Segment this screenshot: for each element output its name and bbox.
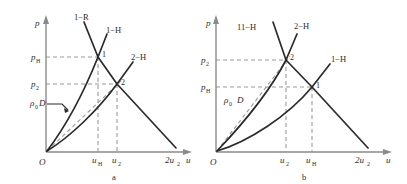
- two-panel-pressure-velocity-diagram: p u O 1−R 1−H 2−H ρ 0 D: [0, 0, 407, 184]
- panel-a-xtick-uH: u H: [92, 155, 103, 167]
- panel-a-xtick-2u2-text: 2u: [165, 155, 175, 165]
- panel-a-label-rho-sub: 0: [35, 104, 38, 110]
- panel-b-label-1H: 1−H: [331, 54, 346, 64]
- panel-a-origin-label: O: [39, 157, 46, 167]
- panel-a-ytick-p2-sub: 2: [36, 85, 39, 91]
- panel-a-xtick-2u2-sub: 2: [177, 161, 180, 167]
- panel-b-label-rho-sub: 0: [229, 101, 232, 107]
- panel-a-label-2H: 2−H: [131, 52, 146, 62]
- panel-b-label-rho0-D: ρ 0 D: [223, 95, 244, 107]
- panel-b-xtick-uH-sub: H: [312, 161, 317, 167]
- panel-a-ytick-pH: p H: [30, 52, 41, 64]
- figure-container: p u O 1−R 1−H 2−H ρ 0 D: [0, 0, 407, 184]
- panel-b-xtick-2u2-sub: 2: [367, 161, 370, 167]
- panel-b-ytick-p2-sub: 2: [206, 61, 209, 67]
- panel-b-ytick-pH: p H: [200, 82, 211, 94]
- panel-a-y-axis-label: p: [34, 18, 40, 28]
- panel-b-xtick-2u2-text: 2u: [355, 155, 365, 165]
- panel-b-xtick-u2-sub: 2: [286, 161, 289, 167]
- panel-a-xtick-u2-sub: 2: [118, 161, 121, 167]
- panel-a-ytick-p2: p 2: [30, 79, 39, 91]
- panel-a-point-1-label: 1: [102, 50, 106, 59]
- panel-a-label-D: D: [38, 98, 46, 108]
- panel-a-label-1R: 1−R: [74, 12, 89, 22]
- panel-b-point-1-label: 1: [316, 81, 320, 90]
- panel-b-ytick-pH-sub: H: [206, 88, 211, 94]
- panel-b-xtick-uH-text: u: [306, 155, 311, 165]
- panel-a-xtick-u2: u 2: [112, 155, 121, 167]
- panel-a-rho0-d-chord: [47, 80, 122, 151]
- panel-b-x-axis: [216, 149, 392, 155]
- panel-a-ytick-pH-sub: H: [36, 58, 41, 64]
- panel-b-y-axis-label: p: [205, 18, 211, 28]
- panel-b-label-2H: 2−H: [294, 21, 309, 31]
- panel-b-caption: b: [302, 172, 306, 182]
- panel-a-label-rho0-D: ρ 0 D: [29, 98, 69, 113]
- panel-a-xtick-uH-sub: H: [98, 161, 103, 167]
- panel-b: p u O 11−H 2−H 1−H ρ 0 D 2: [200, 15, 392, 182]
- panel-b-xtick-u2-text: u: [280, 155, 285, 165]
- panel-b-ytick-p2: p 2: [200, 55, 209, 67]
- panel-b-y-axis: [213, 15, 219, 152]
- panel-a-xtick-2u2: 2u 2: [165, 155, 180, 167]
- panel-b-point-2-label: 2: [290, 53, 294, 62]
- panel-b-origin-label: O: [210, 157, 217, 167]
- panel-b-xtick-uH: u H: [306, 155, 317, 167]
- panel-b-curve-11-H: [273, 22, 368, 148]
- panel-b-label-11H: 11−H: [237, 22, 256, 32]
- panel-a-xtick-uH-text: u: [92, 155, 97, 165]
- panel-b-label-D: D: [236, 95, 244, 105]
- panel-a-x-axis-label: u: [186, 155, 191, 165]
- panel-b-x-axis-label: u: [386, 155, 391, 165]
- panel-a-label-1H: 1−H: [106, 25, 121, 35]
- panel-a-point-2-label: 2: [121, 78, 125, 87]
- panel-b-xtick-u2: u 2: [280, 155, 289, 167]
- panel-a-xtick-u2-text: u: [112, 155, 117, 165]
- panel-a: p u O 1−R 1−H 2−H ρ 0 D: [29, 12, 192, 182]
- panel-b-xtick-2u2: 2u 2: [355, 155, 370, 167]
- panel-a-caption: a: [112, 172, 116, 182]
